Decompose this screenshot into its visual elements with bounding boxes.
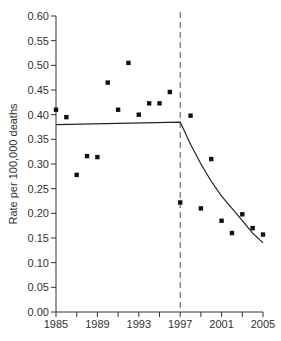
- y-tick-label: 0.15: [28, 232, 49, 244]
- x-tick-label: 2001: [209, 318, 233, 330]
- x-tick-label: 1993: [127, 318, 151, 330]
- x-tick-label: 1997: [168, 318, 192, 330]
- y-tick-label: 0.30: [28, 158, 49, 170]
- y-tick-label: 0.50: [28, 59, 49, 71]
- x-tick-label: 1989: [85, 318, 109, 330]
- y-tick-label: 0.00: [28, 306, 49, 318]
- data-point: [85, 154, 89, 158]
- y-tick-label: 0.05: [28, 281, 49, 293]
- y-tick-label: 0.25: [28, 183, 49, 195]
- x-tick-label: 1985: [44, 318, 68, 330]
- data-point: [54, 108, 58, 112]
- chart: 0.000.050.100.150.200.250.300.350.400.45…: [0, 0, 281, 341]
- y-tick-label: 0.40: [28, 109, 49, 121]
- data-point: [137, 112, 141, 116]
- data-point: [95, 155, 99, 159]
- data-point: [230, 231, 234, 235]
- data-point: [106, 80, 110, 84]
- data-point: [147, 101, 151, 105]
- data-point: [250, 226, 254, 230]
- y-tick-label: 0.60: [28, 10, 49, 22]
- data-point: [168, 90, 172, 94]
- data-point: [240, 212, 244, 216]
- x-tick-label: 2005: [251, 318, 275, 330]
- y-tick-label: 0.45: [28, 84, 49, 96]
- y-tick-label: 0.20: [28, 207, 49, 219]
- data-point: [157, 101, 161, 105]
- data-point: [178, 200, 182, 204]
- data-point: [219, 219, 223, 223]
- data-point: [199, 206, 203, 210]
- data-point: [188, 113, 192, 117]
- data-point: [209, 157, 213, 161]
- data-point: [126, 61, 130, 65]
- data-point: [116, 108, 120, 112]
- trend-line: [56, 122, 263, 243]
- data-point: [64, 115, 68, 119]
- data-point: [261, 232, 265, 236]
- y-tick-label: 0.10: [28, 257, 49, 269]
- data-point: [75, 173, 79, 177]
- y-axis-label: Rate per 100,000 deaths: [7, 103, 19, 225]
- y-tick-label: 0.35: [28, 133, 49, 145]
- y-tick-label: 0.55: [28, 35, 49, 47]
